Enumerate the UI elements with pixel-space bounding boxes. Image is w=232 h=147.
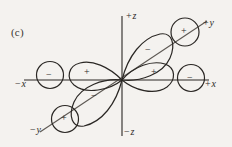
sign-lobe-upper-right: −: [145, 45, 151, 55]
axis-sign-plus-z: +: [126, 10, 132, 21]
axis-label-plus-x: + x: [205, 78, 216, 89]
axis-label-plus-z: + z: [126, 10, 136, 21]
sign-circle-plus-y: +: [181, 26, 187, 36]
sign-circle-plus-x: −: [187, 73, 193, 83]
axis-name-minus-y: y: [36, 124, 40, 135]
sign-lobe-left: +: [84, 67, 90, 77]
axis-sign-minus-y: −: [30, 124, 36, 135]
axis-name-plus-z: z: [132, 10, 136, 21]
axis-name-minus-x: x: [21, 78, 25, 89]
axis-name-plus-y: y: [209, 17, 213, 28]
axis-name-plus-x: x: [211, 78, 215, 89]
axis-sign-plus-x: +: [205, 78, 211, 89]
axis-sign-minus-z: −: [124, 126, 130, 137]
orbital-figure: (c) − − + + − − + + + z − z +: [0, 0, 232, 147]
axis-sign-minus-x: −: [15, 78, 21, 89]
axis-label-minus-z: − z: [124, 126, 134, 137]
axis-sign-plus-y: +: [203, 17, 209, 28]
sign-circle-minus-y: +: [61, 113, 67, 123]
axis-label-plus-y: + y: [203, 17, 214, 28]
axis-label-minus-x: − x: [15, 78, 26, 89]
axis-label-minus-y: − y: [30, 124, 41, 135]
axis-name-minus-z: z: [130, 126, 134, 137]
lobe-left: [69, 62, 122, 90]
sign-circle-minus-x: −: [46, 70, 52, 80]
sign-lobe-lower-left: −: [91, 91, 97, 101]
sign-lobe-right: +: [151, 67, 157, 77]
